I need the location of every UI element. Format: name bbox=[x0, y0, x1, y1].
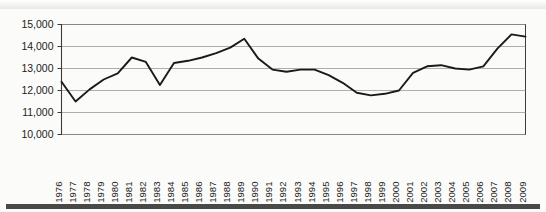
y-tick-label-10000: 10,000 bbox=[21, 128, 53, 140]
x-tick-label-1995: 1995 bbox=[320, 182, 331, 203]
x-tick-label-1993: 1993 bbox=[292, 182, 303, 203]
x-tick-label-1985: 1985 bbox=[179, 182, 190, 203]
y-tick-label-13000: 13,000 bbox=[21, 62, 53, 74]
x-tick-label-1999: 1999 bbox=[376, 182, 387, 203]
x-tick-label-1984: 1984 bbox=[165, 181, 176, 203]
x-tick-label-1977: 1977 bbox=[67, 182, 78, 203]
data-series-line bbox=[62, 34, 526, 101]
x-tick-label-1992: 1992 bbox=[277, 182, 288, 203]
y-tick-label-15000: 15,000 bbox=[21, 18, 53, 30]
x-tick-label-1998: 1998 bbox=[362, 182, 373, 203]
x-tick-label-2007: 2007 bbox=[488, 182, 499, 203]
x-tick-label-1990: 1990 bbox=[249, 182, 260, 203]
x-tick-label-1997: 1997 bbox=[348, 182, 359, 203]
x-tick-label-1996: 1996 bbox=[334, 182, 345, 203]
y-axis-tick-labels: 10,00011,00012,00013,00014,00015,000 bbox=[21, 18, 53, 140]
scan-edge-bottom bbox=[6, 204, 540, 209]
x-tick-label-2002: 2002 bbox=[418, 182, 429, 203]
x-tick-label-1987: 1987 bbox=[207, 182, 218, 203]
x-tick-label-1988: 1988 bbox=[221, 182, 232, 203]
x-tick-label-2001: 2001 bbox=[404, 182, 415, 203]
x-tick-label-1980: 1980 bbox=[109, 182, 120, 203]
x-tick-label-1976: 1976 bbox=[53, 182, 64, 203]
x-tick-label-2004: 2004 bbox=[446, 181, 457, 203]
x-tick-label-2006: 2006 bbox=[474, 182, 485, 203]
x-tick-label-2008: 2008 bbox=[502, 182, 513, 203]
y-tick-label-14000: 14,000 bbox=[21, 40, 53, 52]
plot-frame bbox=[62, 25, 526, 135]
x-tick-label-1983: 1983 bbox=[151, 182, 162, 203]
x-tick-label-2009: 2009 bbox=[517, 182, 528, 203]
x-tick-label-1979: 1979 bbox=[95, 182, 106, 203]
y-axis-tickmarks bbox=[58, 25, 62, 135]
x-tick-label-2005: 2005 bbox=[460, 182, 471, 203]
x-tick-label-1978: 1978 bbox=[81, 182, 92, 203]
y-tick-label-11000: 11,000 bbox=[22, 106, 53, 118]
gridlines-group bbox=[62, 25, 526, 135]
x-tick-label-1982: 1982 bbox=[137, 182, 148, 203]
x-tick-label-2000: 2000 bbox=[390, 182, 401, 203]
chart-plot-area: 10,00011,00012,00013,00014,00015,000 197… bbox=[0, 0, 546, 212]
line-chart-figure: 10,00011,00012,00013,00014,00015,000 197… bbox=[0, 0, 546, 212]
x-axis-tick-labels: 1976197719781979198019811982198319841985… bbox=[53, 181, 528, 203]
x-tick-label-1991: 1991 bbox=[263, 182, 274, 203]
x-tick-label-2003: 2003 bbox=[432, 182, 443, 203]
y-tick-label-12000: 12,000 bbox=[21, 84, 53, 96]
x-tick-label-1989: 1989 bbox=[235, 182, 246, 203]
x-tick-label-1994: 1994 bbox=[306, 181, 317, 203]
x-tick-label-1986: 1986 bbox=[193, 182, 204, 203]
x-tick-label-1981: 1981 bbox=[123, 182, 134, 203]
